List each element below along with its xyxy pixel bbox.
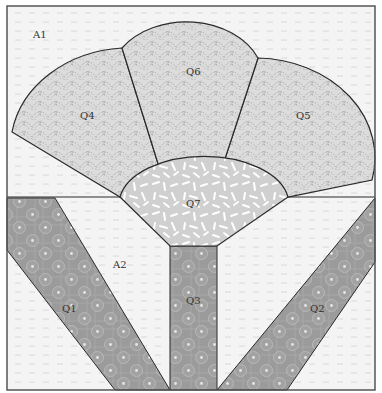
quilt-block-diagram: A1 A2 Q1 Q2 Q3 Q4 Q5 Q6 Q7 (0, 0, 382, 393)
label-q6: Q6 (186, 66, 201, 77)
label-q3: Q3 (186, 295, 201, 306)
label-a1: A1 (32, 29, 47, 40)
label-q7: Q7 (186, 198, 201, 209)
label-q2: Q2 (310, 303, 325, 314)
label-q4: Q4 (80, 110, 95, 121)
label-a2: A2 (112, 259, 127, 270)
piece-q3 (170, 246, 217, 390)
label-q5: Q5 (296, 110, 311, 121)
label-q1: Q1 (62, 303, 77, 314)
